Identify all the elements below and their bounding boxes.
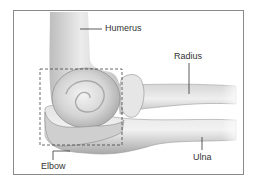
label-elbow: Elbow xyxy=(41,162,66,171)
label-ulna: Ulna xyxy=(193,153,212,162)
label-humerus: Humerus xyxy=(105,24,142,33)
elbow-leader-line xyxy=(53,151,70,160)
radial-head xyxy=(120,75,144,118)
humerus-condyle xyxy=(52,68,120,128)
label-radius: Radius xyxy=(174,52,202,61)
